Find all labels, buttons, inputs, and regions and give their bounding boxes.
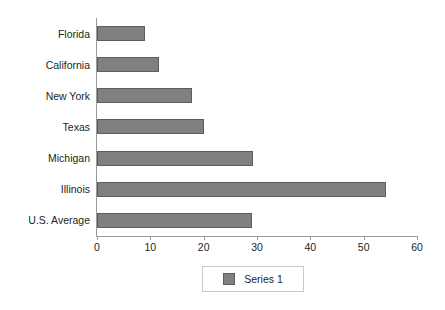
category-label: Florida — [0, 29, 90, 40]
bar-band — [97, 143, 417, 174]
bar[interactable] — [97, 119, 204, 134]
x-axis-tick-label: 50 — [344, 242, 384, 253]
x-axis-tick-label: 60 — [397, 242, 437, 253]
bar-chart: FloridaCaliforniaNew YorkTexasMichiganIl… — [0, 0, 445, 310]
x-axis-tick — [257, 236, 258, 240]
bar[interactable] — [97, 57, 159, 72]
category-label: New York — [0, 91, 90, 102]
plot-area — [97, 18, 417, 236]
chart-legend[interactable]: Series 1 — [202, 266, 304, 292]
x-axis-tick-label: 10 — [130, 242, 170, 253]
category-label: California — [0, 60, 90, 71]
category-label: Texas — [0, 122, 90, 133]
x-axis-tick — [417, 236, 418, 240]
bar-band — [97, 111, 417, 142]
legend-label-series-1: Series 1 — [244, 274, 283, 285]
category-label: Illinois — [0, 184, 90, 195]
x-axis-tick — [364, 236, 365, 240]
bar[interactable] — [97, 26, 145, 41]
bar-band — [97, 49, 417, 80]
x-axis-tick — [97, 236, 98, 240]
bar[interactable] — [97, 182, 386, 197]
x-axis-tick-label: 0 — [77, 242, 117, 253]
bar-band — [97, 174, 417, 205]
bar-band — [97, 205, 417, 236]
category-label: Michigan — [0, 153, 90, 164]
category-label: U.S. Average — [0, 215, 90, 226]
x-axis-tick — [150, 236, 151, 240]
bar[interactable] — [97, 213, 252, 228]
x-axis-tick-label: 20 — [184, 242, 224, 253]
bar-band — [97, 80, 417, 111]
x-axis-tick-label: 30 — [237, 242, 277, 253]
x-axis-tick — [310, 236, 311, 240]
bar-band — [97, 18, 417, 49]
bar[interactable] — [97, 88, 192, 103]
x-axis-tick — [204, 236, 205, 240]
bar[interactable] — [97, 151, 253, 166]
legend-swatch-series-1 — [223, 273, 235, 285]
x-axis-tick-label: 40 — [290, 242, 330, 253]
